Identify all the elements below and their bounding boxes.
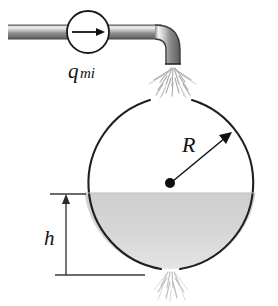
sphere-center-dot <box>165 178 175 188</box>
flow-rate-subscript: mi <box>80 65 95 81</box>
flow-rate-symbol: q <box>68 59 79 83</box>
diagram-canvas: q mi <box>0 0 278 306</box>
pump-symbol <box>67 11 109 53</box>
supply-pipe <box>8 25 70 39</box>
physics-diagram: q mi <box>0 0 278 306</box>
pipe-midsection <box>106 25 162 39</box>
radius-label: R <box>181 132 196 157</box>
height-label: h <box>44 226 55 250</box>
